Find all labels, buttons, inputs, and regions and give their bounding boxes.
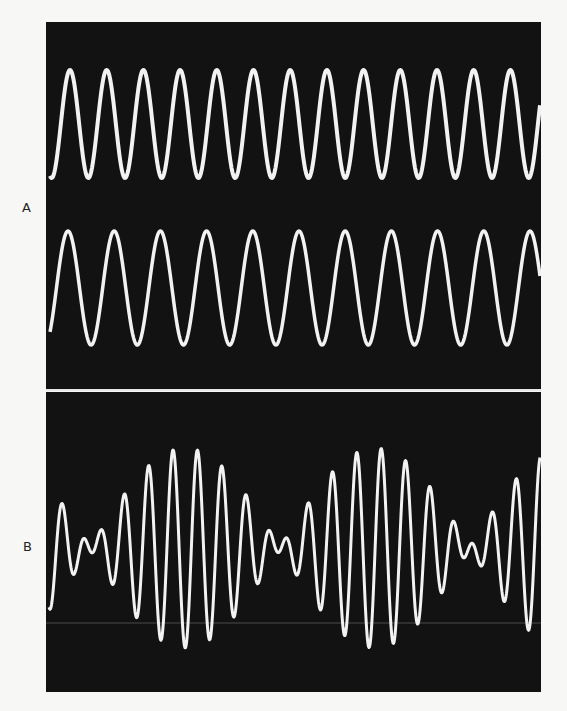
panel-b-screen [46,392,541,692]
panel-divider [46,389,541,391]
panel-b-label: B [23,539,32,554]
panel-a-label: A [22,200,31,215]
oscilloscope-figure [0,0,567,711]
